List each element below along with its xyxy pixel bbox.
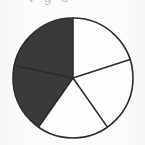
figure-root: v g o — [0, 0, 145, 145]
pie-chart — [0, 0, 145, 145]
pie-chart-svg — [0, 0, 145, 145]
